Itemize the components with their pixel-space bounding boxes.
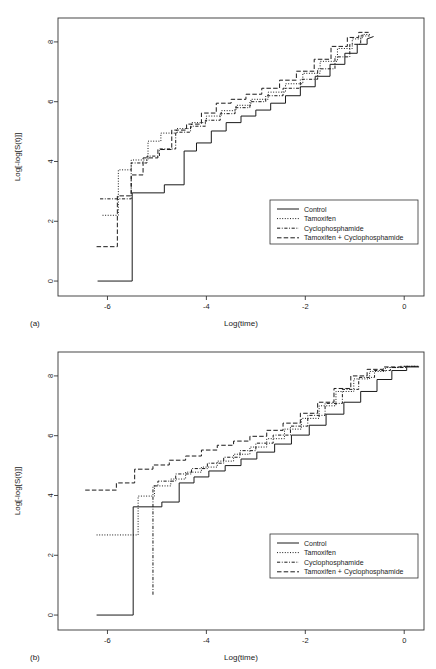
curve-dashed	[85, 366, 418, 490]
x-tick-label: 0	[402, 636, 406, 645]
y-tick-label: 8	[46, 40, 55, 44]
plot-b-svg: -6-4-2002468Log(time)Log[-log[S(t)]](b)C…	[0, 334, 436, 669]
x-tick-label: 0	[402, 302, 406, 311]
y-axis-title: Log[-log[S(t)]]	[13, 467, 22, 515]
legend-label: Cyclophosphamide	[304, 559, 364, 567]
x-tick-label: -6	[104, 302, 111, 311]
y-tick-label: 6	[46, 434, 55, 438]
plot-b: -6-4-2002468Log(time)Log[-log[S(t)]](b)C…	[0, 334, 436, 654]
plot-a-svg: -6-4-2002468Log(time)Log[-log[S(t)]](a)C…	[0, 0, 436, 334]
panel-label: (b)	[30, 653, 40, 662]
legend-label: Tamoxifen + Cyclophosphamide	[304, 234, 404, 242]
x-tick-label: -2	[302, 636, 309, 645]
panel-label: (a)	[30, 319, 40, 328]
figure-survival-loglog: -6-4-2002468Log(time)Log[-log[S(t)]](a)C…	[0, 0, 436, 669]
x-axis-title: Log(time)	[224, 653, 258, 662]
y-tick-label: 4	[46, 159, 55, 163]
legend-label: Control	[304, 206, 327, 213]
panel-b: -6-4-2002468Log(time)Log[-log[S(t)]](b)C…	[0, 334, 436, 669]
x-axis-title: Log(time)	[224, 319, 258, 328]
y-axis-title: Log[-log[S(t)]]	[13, 133, 22, 181]
y-tick-label: 2	[46, 553, 55, 557]
x-tick-label: -4	[203, 636, 210, 645]
legend-label: Tamoxifen + Cyclophosphamide	[304, 568, 404, 576]
legend-label: Tamoxifen	[304, 215, 336, 222]
y-tick-label: 0	[46, 279, 55, 283]
legend-label: Cyclophosphamide	[304, 225, 364, 233]
x-tick-label: -6	[104, 636, 111, 645]
y-tick-label: 6	[46, 100, 55, 104]
curve-dashdot	[100, 36, 370, 199]
x-tick-label: -4	[203, 302, 210, 311]
x-tick-label: -2	[302, 302, 309, 311]
y-tick-label: 0	[46, 613, 55, 617]
legend-label: Control	[304, 540, 327, 547]
legend-label: Tamoxifen	[304, 549, 336, 556]
y-tick-label: 4	[46, 493, 55, 497]
y-tick-label: 8	[46, 374, 55, 378]
plot-a: -6-4-2002468Log(time)Log[-log[S(t)]](a)C…	[0, 0, 436, 320]
panel-a: -6-4-2002468Log(time)Log[-log[S(t)]](a)C…	[0, 0, 436, 334]
y-tick-label: 2	[46, 219, 55, 223]
curve-dotted	[103, 34, 371, 215]
